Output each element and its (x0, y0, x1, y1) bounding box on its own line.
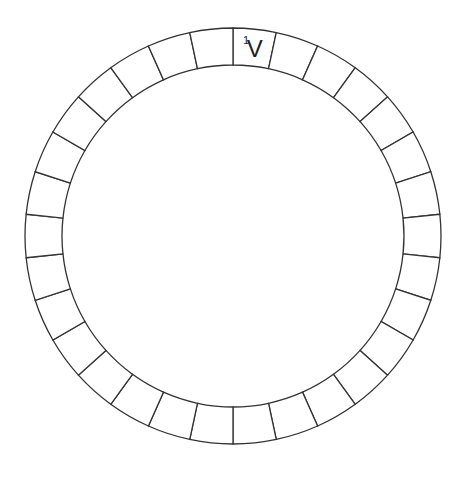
ring-cell[interactable] (233, 403, 276, 444)
ring-cell[interactable] (190, 28, 233, 69)
ring-cell[interactable] (25, 214, 63, 257)
ring-cell[interactable] (403, 214, 441, 257)
puzzle-ring: V1 (0, 0, 462, 477)
cell-number: 1 (243, 34, 249, 46)
